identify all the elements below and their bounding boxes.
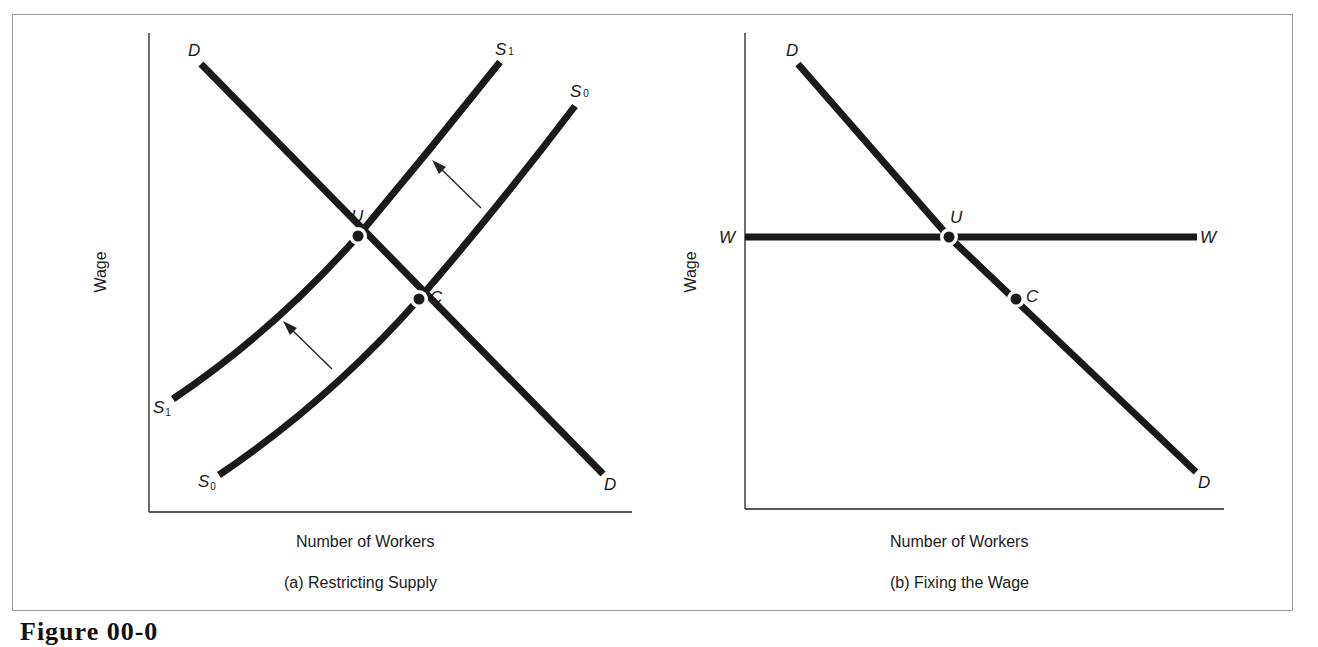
- panel-b: D D W W U C Wage: [682, 33, 1224, 509]
- figure-number-label: Figure 00-0: [20, 617, 158, 647]
- panel-a-label-s1-bottom: S1: [153, 398, 171, 418]
- panel-a-x-axis-title: Number of Workers: [296, 533, 434, 551]
- panel-a-shift-arrow-upper: [432, 160, 481, 208]
- panel-a-y-axis-title: Wage: [92, 251, 109, 292]
- panel-b-label-d-top: D: [786, 41, 798, 60]
- panel-a-supply-s1-curve: [173, 62, 500, 399]
- panel-a-caption: (a) Restricting Supply: [284, 574, 437, 592]
- panel-a-point-c: [414, 294, 425, 305]
- panel-b-label-u: U: [950, 208, 963, 227]
- panel-a-label-d-top: D: [188, 41, 200, 60]
- panel-a-demand-curve: [201, 64, 603, 474]
- panel-a-label-s0-bottom: S0: [198, 472, 216, 492]
- panel-b-x-axis-title: Number of Workers: [890, 533, 1028, 551]
- panel-b-label-d-bottom: D: [1198, 473, 1210, 492]
- panel-a-label-u: U: [351, 207, 364, 226]
- panel-a-label-d-bottom: D: [604, 475, 616, 494]
- panel-a-point-u: [353, 231, 364, 242]
- panel-b-point-u: [944, 232, 955, 243]
- panel-b-label-c: C: [1026, 287, 1039, 306]
- panel-b-label-w-right: W: [1200, 228, 1218, 247]
- panel-a-label-c: C: [430, 288, 443, 307]
- panel-b-point-c: [1011, 294, 1022, 305]
- panel-b-label-w-left: W: [719, 228, 737, 247]
- panel-a-label-s1-top: S1: [495, 40, 514, 59]
- panel-b-caption: (b) Fixing the Wage: [890, 574, 1029, 592]
- panel-a-supply-s0-curve: [219, 106, 575, 475]
- panel-a: D D S1 S0 S1 S0 U C Wage: [92, 33, 632, 512]
- panel-a-shift-arrow-lower: [283, 321, 332, 369]
- panel-b-demand-curve: [798, 64, 1196, 472]
- panel-a-label-s0-top: S0: [570, 82, 589, 101]
- panel-b-y-axis-title: Wage: [682, 251, 699, 292]
